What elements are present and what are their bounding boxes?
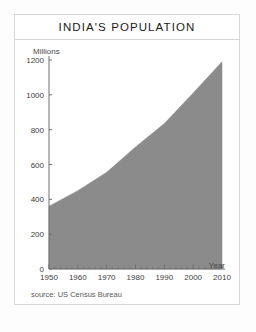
chart-card: INDIA'S POPULATION Millions 020040060080… xyxy=(14,14,240,305)
y-tick-label: 600 xyxy=(31,161,45,170)
y-tick-label: 1000 xyxy=(26,91,44,100)
x-tick-label: 2010 xyxy=(213,273,231,282)
x-axis-title: Year xyxy=(209,261,225,270)
page-title: INDIA'S POPULATION xyxy=(59,21,196,33)
x-tick-label: 1970 xyxy=(98,273,116,282)
source-note: source: US Census Bureau xyxy=(31,290,122,299)
x-tick-label: 1980 xyxy=(127,273,145,282)
area-series xyxy=(49,62,222,269)
y-tick-label: 800 xyxy=(31,126,45,135)
area-chart-svg: 0200400600800100012001950196019701980199… xyxy=(15,40,241,305)
y-tick-label: 200 xyxy=(31,230,45,239)
chart-plot-group: 0200400600800100012001950196019701980199… xyxy=(26,56,231,282)
x-tick-label: 2000 xyxy=(184,273,202,282)
x-tick-label: 1950 xyxy=(40,273,58,282)
y-tick-label: 1200 xyxy=(26,56,44,65)
x-tick-label: 1990 xyxy=(155,273,173,282)
chart-page: INDIA'S POPULATION Millions 020040060080… xyxy=(0,0,256,332)
y-tick-label: 400 xyxy=(31,195,45,204)
chart-title-bar: INDIA'S POPULATION xyxy=(15,15,239,40)
plot-area: Millions 0200400600800100012001950196019… xyxy=(15,40,239,305)
x-tick-label: 1960 xyxy=(69,273,87,282)
